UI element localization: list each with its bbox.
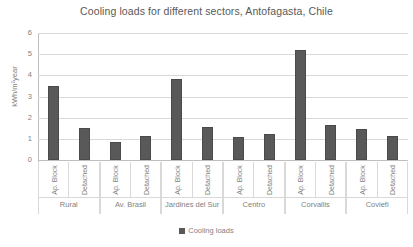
- subcategory-cell: Detached: [69, 162, 98, 198]
- category-group: Ap. BlockDetachedAv. Brasil: [100, 162, 162, 214]
- y-axis-title: kWh/m²year: [10, 52, 19, 122]
- subcategory-cell: Detached: [193, 162, 222, 198]
- gridline: [38, 33, 408, 34]
- group-label: Coviefi: [347, 200, 407, 209]
- y-tick-label: 6: [2, 29, 32, 37]
- subcategory-cell: Ap. Block: [39, 162, 69, 198]
- legend-label: Cooling loads: [188, 226, 233, 235]
- subcategory-cell: Detached: [316, 162, 345, 198]
- subcategory-cell: Ap. Block: [286, 162, 316, 198]
- gridline: [38, 118, 408, 119]
- subcategory-row: Ap. BlockDetached: [101, 162, 161, 198]
- x-axis-line: [38, 160, 408, 161]
- gridline: [38, 139, 408, 140]
- bar: [387, 136, 398, 160]
- bar: [171, 79, 182, 160]
- subcategory-label: Detached: [142, 165, 149, 195]
- y-tick-label: 0: [2, 156, 32, 164]
- bar: [356, 129, 367, 160]
- bar: [202, 127, 213, 160]
- subcategory-row: Ap. BlockDetached: [286, 162, 346, 198]
- subcategory-cell: Ap. Block: [347, 162, 377, 198]
- subcategory-label: Detached: [389, 165, 396, 195]
- subcategory-label: Detached: [80, 165, 87, 195]
- category-group: Ap. BlockDetachedCorvallis: [285, 162, 347, 214]
- bar: [140, 136, 151, 160]
- subcategory-cell: Detached: [254, 162, 283, 198]
- subcategory-row: Ap. BlockDetached: [39, 162, 99, 198]
- gridline: [38, 75, 408, 76]
- subcategory-label: Detached: [327, 165, 334, 195]
- category-group: Ap. BlockDetachedJardines del Sur: [161, 162, 223, 214]
- category-group: Ap. BlockDetachedRural: [38, 162, 100, 214]
- subcategory-label: Detached: [204, 165, 211, 195]
- bar: [110, 142, 121, 160]
- bar: [233, 137, 244, 160]
- legend-entry[interactable]: Cooling loads: [179, 226, 233, 235]
- group-label: Rural: [39, 200, 99, 209]
- legend-swatch-icon: [179, 228, 185, 234]
- subcategory-label: Detached: [265, 165, 272, 195]
- subcategory-label: Ap. Block: [297, 165, 304, 195]
- subcategory-cell: Ap. Block: [224, 162, 254, 198]
- bar: [48, 86, 59, 160]
- y-tick-label: 1: [2, 135, 32, 143]
- plot-area: [38, 33, 408, 161]
- group-label: Corvallis: [286, 200, 346, 209]
- subcategory-cell: Detached: [131, 162, 160, 198]
- group-label: Jardines del Sur: [162, 200, 222, 209]
- bar: [79, 128, 90, 160]
- bar: [325, 125, 336, 160]
- subcategory-row: Ap. BlockDetached: [162, 162, 222, 198]
- subcategory-row: Ap. BlockDetached: [347, 162, 407, 198]
- subcategory-cell: Detached: [378, 162, 407, 198]
- subcategory-cell: Ap. Block: [162, 162, 192, 198]
- subcategory-row: Ap. BlockDetached: [224, 162, 284, 198]
- gridline: [38, 54, 408, 55]
- category-axis: Ap. BlockDetachedRuralAp. BlockDetachedA…: [38, 162, 408, 214]
- group-label: Centro: [224, 200, 284, 209]
- category-group: Ap. BlockDetachedCentro: [223, 162, 285, 214]
- subcategory-label: Ap. Block: [50, 165, 57, 195]
- subcategory-label: Ap. Block: [358, 165, 365, 195]
- subcategory-label: Ap. Block: [112, 165, 119, 195]
- bar: [264, 134, 275, 160]
- gridline: [38, 97, 408, 98]
- subcategory-label: Ap. Block: [173, 165, 180, 195]
- chart-title: Cooling loads for different sectors, Ant…: [0, 5, 413, 17]
- subcategory-label: Ap. Block: [235, 165, 242, 195]
- group-label: Av. Brasil: [101, 200, 161, 209]
- bar: [295, 50, 306, 160]
- category-group: Ap. BlockDetachedCoviefi: [346, 162, 408, 214]
- chart-container: Cooling loads for different sectors, Ant…: [0, 0, 413, 247]
- legend: Cooling loads: [0, 226, 413, 236]
- subcategory-cell: Ap. Block: [101, 162, 131, 198]
